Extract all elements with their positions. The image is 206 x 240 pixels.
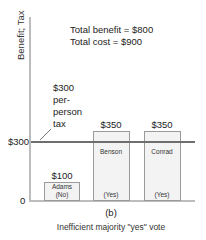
chart-caption: Inefficient majority "yes" vote [0,222,206,232]
panel-label: (b) [0,207,206,218]
annotation-leader-line [0,0,206,240]
